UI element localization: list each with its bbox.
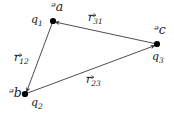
charge-dot-q2 [22,91,28,97]
charge-label-q3: q3 [152,51,164,65]
charge-subscript-q3: 3 [159,56,164,65]
charge-dot-q3 [154,41,160,47]
charge-dot-q1 [50,18,56,24]
charge-symbol-q1: q [31,13,38,26]
charge-symbol-q2: q [31,96,38,109]
vector-symbol-r31: r [88,11,93,24]
charge-triangle-diagram: ᵊa q1 ᵊc q3 ᵊb q2 r12 r23 r31 [0,0,174,114]
vector-label-r23: r23 [86,74,101,88]
vector-label-r12: r12 [14,52,29,66]
charge-label-q2: q2 [31,97,43,111]
vector-subscript-r23: 23 [91,79,101,88]
charge-label-q1: q1 [31,14,43,28]
vector-symbol-r12: r [14,51,19,64]
vector-line-r12 [27,21,54,92]
charge-subscript-q2: 2 [38,102,43,111]
vector-line-r31 [55,22,157,44]
vector-symbol-r23: r [86,73,91,86]
vector-subscript-r12: 12 [19,57,29,66]
point-label-Q: ᵊc [154,24,166,37]
point-label-P: ᵊb [9,87,22,100]
charge-symbol-q3: q [152,50,159,63]
vector-label-r31: r31 [88,12,103,26]
vector-subscript-r31: 31 [93,17,103,26]
charge-subscript-q1: 1 [38,19,43,28]
point-label-O: ᵊa [51,1,63,14]
